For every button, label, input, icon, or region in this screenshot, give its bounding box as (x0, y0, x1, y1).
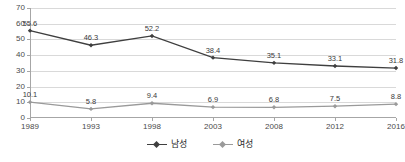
data-point-marker (333, 64, 337, 68)
data-point-label: 10.1 (23, 91, 38, 99)
data-point-marker (333, 104, 337, 108)
x-tick-mark (274, 118, 275, 121)
data-point-label: 52.2 (145, 24, 160, 32)
x-tick-label: 1989 (21, 123, 39, 131)
y-tick-label: 50 (16, 35, 25, 43)
y-tick-label: 30 (16, 67, 25, 75)
x-tick-mark (152, 118, 153, 121)
data-point-label: 31.8 (389, 57, 404, 65)
x-tick-label: 2012 (326, 123, 344, 131)
data-point-marker (211, 55, 215, 59)
data-point-label: 35.1 (267, 51, 282, 59)
x-tick-mark (91, 118, 92, 121)
legend-item-male[interactable]: 남성 (147, 140, 187, 149)
data-point-marker (272, 61, 276, 65)
data-point-label: 55.6 (23, 19, 38, 27)
data-point-marker (28, 100, 32, 104)
plot-area: 010203040506070 198919931998200320082012… (30, 8, 396, 118)
data-point-marker (150, 34, 154, 38)
x-tick-label: 1998 (143, 123, 161, 131)
data-point-marker (272, 105, 276, 109)
x-tick-label: 2003 (204, 123, 222, 131)
y-tick-label: 0 (21, 114, 25, 122)
data-point-label: 38.4 (206, 46, 221, 54)
data-point-marker (211, 105, 215, 109)
data-point-marker (89, 43, 93, 47)
y-tick-label: 10 (16, 98, 25, 106)
data-point-label: 5.8 (86, 97, 96, 105)
x-tick-label: 2008 (265, 123, 283, 131)
data-point-label: 6.9 (208, 96, 218, 104)
data-point-label: 33.1 (328, 54, 343, 62)
chart-legend: 남성 여성 (0, 140, 400, 149)
y-tick-label: 40 (16, 51, 25, 59)
y-tick-label: 70 (16, 4, 25, 12)
x-tick-mark (213, 118, 214, 121)
data-point-marker (394, 102, 398, 106)
legend-label-male: 남성 (171, 140, 187, 149)
x-tick-mark (396, 118, 397, 121)
legend-label-female: 여성 (237, 140, 253, 149)
x-tick-label: 1993 (82, 123, 100, 131)
data-point-marker (89, 107, 93, 111)
legend-marker-female (213, 140, 233, 149)
data-point-marker (28, 28, 32, 32)
legend-item-female[interactable]: 여성 (213, 140, 253, 149)
data-point-marker (394, 66, 398, 70)
data-point-label: 7.5 (330, 95, 340, 103)
x-tick-label: 2016 (387, 123, 405, 131)
data-point-label: 8.8 (391, 93, 401, 101)
data-point-label: 46.3 (84, 34, 99, 42)
x-tick-mark (30, 118, 31, 121)
x-tick-mark (335, 118, 336, 121)
data-point-marker (150, 101, 154, 105)
data-point-label: 6.8 (269, 96, 279, 104)
data-point-label: 9.4 (147, 92, 157, 100)
legend-marker-male (147, 140, 167, 149)
